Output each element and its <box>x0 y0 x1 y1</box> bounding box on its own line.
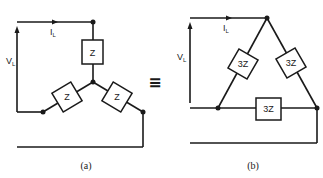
current-arrow-icon <box>52 20 58 25</box>
impedance-top-label: Z <box>90 48 96 58</box>
impedance-delta-right: 3Z <box>276 48 306 78</box>
impedance-right: Z <box>102 82 132 112</box>
circuit-diagram: IL VL Z Z Z (a) ≡ IL VL <box>0 0 323 178</box>
impedance-delta-bottom-label: 3Z <box>263 104 274 114</box>
voltage-arrow-icon-b <box>188 22 193 29</box>
svg-text:3Z: 3Z <box>286 58 297 68</box>
equivalence-symbol: ≡ <box>148 73 161 92</box>
panel-a-star: IL VL Z Z Z (a) <box>6 20 146 173</box>
svg-text:Z: Z <box>64 92 70 102</box>
voltage-arrow-icon <box>15 26 20 33</box>
current-label: IL <box>50 27 57 38</box>
impedance-delta-left: 3Z <box>228 49 258 79</box>
delta-node-top <box>265 16 270 21</box>
svg-text:Z: Z <box>114 92 120 102</box>
caption-a: (a) <box>80 160 91 172</box>
caption-b: (b) <box>247 160 259 172</box>
delta-node-left <box>216 106 221 111</box>
panel-b-delta: IL VL 3Z 3Z 3Z (b) <box>177 16 320 173</box>
voltage-label-b: VL <box>177 52 187 63</box>
impedance-left: Z <box>52 82 82 112</box>
svg-text:3Z: 3Z <box>238 59 249 69</box>
delta-node-right <box>315 106 320 111</box>
current-arrow-icon-b <box>226 16 232 21</box>
current-label-b: IL <box>223 23 230 34</box>
voltage-label: VL <box>6 56 16 67</box>
